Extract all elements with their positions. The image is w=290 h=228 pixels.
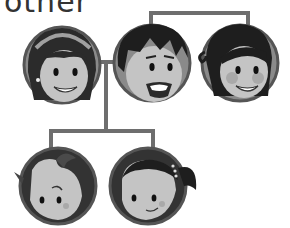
avatar-aunt[interactable]	[200, 24, 278, 101]
avatar-daughter[interactable]	[110, 148, 196, 224]
children-bracket	[51, 131, 153, 150]
family-tree	[0, 0, 290, 228]
avatar-father[interactable]	[114, 24, 190, 102]
avatar-mother[interactable]	[24, 27, 100, 103]
avatar-son[interactable]	[14, 148, 96, 224]
